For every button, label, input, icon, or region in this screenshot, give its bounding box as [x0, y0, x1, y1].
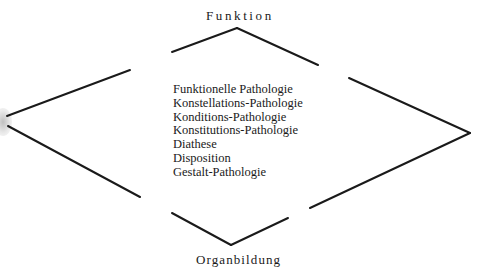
term-item: Funktionelle Pathologie	[173, 83, 303, 97]
line-upper-right	[349, 78, 470, 133]
line-bottom-left	[172, 213, 231, 245]
line-top-left	[172, 28, 237, 52]
term-item: Konstellations-Pathologie	[173, 97, 303, 111]
term-item: Diathese	[173, 138, 303, 152]
top-label-funktion: Funktion	[206, 8, 274, 24]
term-item: Konditions-Pathologie	[173, 111, 303, 125]
line-lower-right	[310, 133, 470, 208]
bottom-label-organbildung: Organbildung	[196, 252, 281, 268]
term-item: Gestalt-Pathologie	[173, 166, 303, 180]
term-item: Disposition	[173, 152, 303, 166]
line-bottom-right	[231, 218, 288, 245]
term-item: Konstitutions-Pathologie	[173, 124, 303, 138]
line-lower-left	[8, 126, 140, 197]
line-upper-left	[7, 70, 130, 116]
pathology-term-list: Funktionelle Pathologie Konstellations-P…	[173, 83, 303, 180]
line-top-right	[237, 28, 318, 65]
